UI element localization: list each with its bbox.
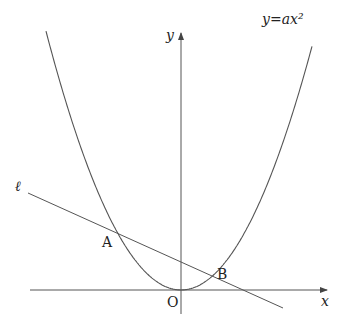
curve-label: y=ax²	[261, 11, 304, 27]
y-axis-label: y	[165, 27, 175, 43]
x-axis-label: x	[321, 293, 329, 309]
point-b-label: B	[217, 266, 227, 282]
parabola-line-diagram: y=ax² ℓ A B O x y	[0, 0, 355, 325]
origin-label: O	[167, 294, 178, 310]
line-l	[28, 193, 283, 308]
point-a-label: A	[101, 234, 113, 250]
line-label: ℓ	[15, 178, 21, 194]
parabola-curve	[46, 31, 312, 290]
